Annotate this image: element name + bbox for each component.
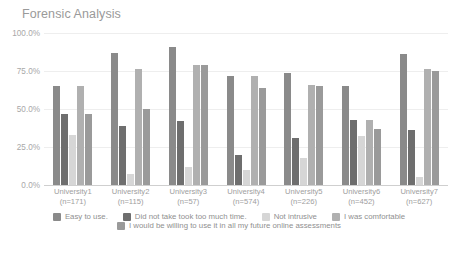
x-axis-tick-label: University7(n=627) — [390, 187, 448, 209]
bar-group — [102, 33, 160, 185]
bar[interactable] — [358, 136, 365, 185]
bar[interactable] — [432, 71, 439, 185]
x-axis-category-count: (n=226) — [275, 197, 333, 207]
chart-legend: Easy to use.Did not take took too much t… — [0, 212, 458, 230]
bar[interactable] — [416, 177, 423, 185]
x-axis-tick-label: University5(n=226) — [275, 187, 333, 209]
bar[interactable] — [119, 126, 126, 185]
y-axis-tick-label: 50.0% — [17, 105, 40, 114]
bar[interactable] — [424, 69, 431, 185]
legend-swatch-icon — [53, 213, 61, 221]
bar[interactable] — [308, 85, 315, 185]
bar[interactable] — [185, 167, 192, 185]
y-axis-tick-label: 25.0% — [17, 143, 40, 152]
x-axis-category-name: University5 — [275, 187, 333, 197]
bar[interactable] — [251, 76, 258, 185]
y-axis-tick-label: 75.0% — [17, 67, 40, 76]
bar[interactable] — [227, 76, 234, 185]
bar[interactable] — [169, 47, 176, 185]
x-axis-category-count: (n=171) — [44, 197, 102, 207]
bar[interactable] — [135, 69, 142, 185]
bar-group — [390, 33, 448, 185]
legend-item-label: I was comfortable — [344, 212, 405, 221]
bar[interactable] — [243, 170, 250, 185]
x-axis-tick-label: University3(n=57) — [159, 187, 217, 209]
bar[interactable] — [300, 158, 307, 185]
bar-group — [217, 33, 275, 185]
bar[interactable] — [127, 174, 134, 185]
bar[interactable] — [284, 73, 291, 185]
x-axis-category-count: (n=627) — [390, 197, 448, 207]
bar-group — [159, 33, 217, 185]
x-axis-category-name: University7 — [390, 187, 448, 197]
bar[interactable] — [61, 114, 68, 185]
bar[interactable] — [193, 65, 200, 185]
legend-item[interactable]: Easy to use. — [53, 212, 108, 221]
x-axis-category-name: University1 — [44, 187, 102, 197]
y-axis-tick-label: 100.0% — [12, 29, 40, 38]
x-axis-tick-label: University2(n=115) — [102, 187, 160, 209]
bar[interactable] — [235, 155, 242, 185]
bar-groups — [44, 33, 448, 185]
bar[interactable] — [400, 54, 407, 185]
legend-row-secondary: I would be willing to use it in all my f… — [0, 221, 458, 230]
legend-item[interactable]: I would be willing to use it in all my f… — [117, 221, 341, 230]
bar[interactable] — [342, 86, 349, 185]
x-axis: University1(n=171)University2(n=115)Univ… — [44, 187, 448, 209]
legend-item[interactable]: Not intrusive — [262, 212, 317, 221]
bar[interactable] — [292, 138, 299, 185]
bar[interactable] — [316, 86, 323, 185]
legend-item-label: Not intrusive — [274, 212, 317, 221]
y-axis-tick-label: 0.0% — [21, 181, 40, 190]
chart-container: Forensic Analysis 0.0%25.0%50.0%75.0%100… — [0, 0, 458, 258]
bar[interactable] — [53, 86, 60, 185]
legend-swatch-icon — [123, 213, 131, 221]
bar[interactable] — [85, 114, 92, 185]
bar-group — [333, 33, 391, 185]
x-axis-tick-label: University4(n=574) — [217, 187, 275, 209]
legend-item[interactable]: I was comfortable — [332, 212, 405, 221]
x-axis-category-count: (n=574) — [217, 197, 275, 207]
bar[interactable] — [143, 109, 150, 185]
chart-title: Forensic Analysis — [22, 7, 121, 21]
legend-item[interactable]: Did not take took too much time. — [123, 212, 247, 221]
y-axis: 0.0%25.0%50.0%75.0%100.0% — [0, 33, 40, 185]
bar[interactable] — [77, 86, 84, 185]
x-axis-category-name: University2 — [102, 187, 160, 197]
legend-item-label: I would be willing to use it in all my f… — [129, 221, 341, 230]
legend-item-label: Did not take took too much time. — [135, 212, 247, 221]
x-axis-category-name: University3 — [159, 187, 217, 197]
x-axis-category-name: University6 — [333, 187, 391, 197]
bar[interactable] — [259, 88, 266, 185]
bar[interactable] — [69, 135, 76, 185]
bar[interactable] — [111, 53, 118, 185]
bar-group — [275, 33, 333, 185]
legend-swatch-icon — [262, 213, 270, 221]
legend-item-label: Easy to use. — [65, 212, 108, 221]
x-axis-category-name: University4 — [217, 187, 275, 197]
bar[interactable] — [366, 120, 373, 185]
legend-swatch-icon — [332, 213, 340, 221]
bar-group — [44, 33, 102, 185]
x-axis-category-count: (n=57) — [159, 197, 217, 207]
plot-area — [44, 33, 448, 185]
bar[interactable] — [201, 65, 208, 185]
bar[interactable] — [177, 121, 184, 185]
x-axis-tick-label: University1(n=171) — [44, 187, 102, 209]
legend-row-primary: Easy to use.Did not take took too much t… — [0, 212, 458, 221]
x-axis-tick-label: University6(n=452) — [333, 187, 391, 209]
bar[interactable] — [374, 129, 381, 185]
bar[interactable] — [408, 130, 415, 185]
axis-baseline — [44, 185, 448, 186]
x-axis-category-count: (n=115) — [102, 197, 160, 207]
legend-swatch-icon — [117, 222, 125, 230]
x-axis-category-count: (n=452) — [333, 197, 391, 207]
bar[interactable] — [350, 120, 357, 185]
